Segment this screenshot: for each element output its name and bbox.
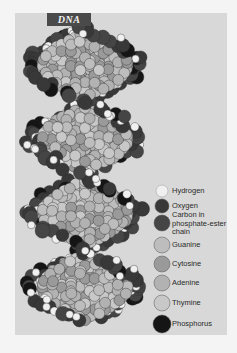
- atom-sphere: [126, 202, 134, 210]
- atom-sphere: [62, 89, 76, 103]
- atom-sphere: [85, 169, 93, 177]
- atom-sphere: [103, 132, 114, 143]
- atom-sphere: [89, 77, 100, 88]
- atom-sphere: [66, 311, 74, 319]
- atom-sphere: [31, 145, 39, 153]
- atom-sphere: [84, 113, 95, 124]
- atom-sphere: [56, 163, 69, 176]
- legend-swatch-hydrogen-icon: [156, 185, 168, 197]
- atom-sphere: [23, 141, 31, 149]
- legend-label-carbon-3: chain: [172, 228, 190, 237]
- atom-sphere: [97, 101, 105, 109]
- atom-sphere: [70, 150, 81, 161]
- atom-sphere: [113, 256, 121, 264]
- atom-sphere: [117, 34, 125, 42]
- legend-swatch-phosphorus-icon: [153, 315, 171, 333]
- atom-sphere: [130, 265, 138, 273]
- atom-sphere: [100, 297, 111, 308]
- legend-swatch-cytosine-icon: [154, 256, 170, 272]
- atom-sphere: [100, 255, 115, 270]
- dna-helix-atoms: [19, 20, 149, 327]
- atom-sphere: [54, 263, 65, 274]
- legend-swatch-adenine-icon: [154, 275, 170, 291]
- atom-sphere: [50, 156, 58, 164]
- atom-sphere: [118, 110, 131, 123]
- atom-sphere: [75, 300, 86, 311]
- dna-space-filling-model: [0, 0, 237, 353]
- atom-sphere: [120, 288, 131, 299]
- atom-sphere: [32, 269, 40, 277]
- atom-sphere: [79, 96, 93, 110]
- atom-sphere: [73, 313, 81, 321]
- atom-sphere: [84, 201, 95, 212]
- atom-sphere: [113, 74, 124, 85]
- atom-sphere: [93, 215, 104, 226]
- atom-sphere: [80, 156, 91, 167]
- legend-swatches: [153, 185, 171, 333]
- atom-sphere: [91, 159, 102, 170]
- atom-sphere: [103, 182, 116, 195]
- atom-sphere: [48, 276, 59, 287]
- legend-label-phosphorus: Phosphorus: [172, 320, 212, 329]
- atom-sphere: [79, 30, 87, 38]
- atom-sphere: [94, 285, 105, 296]
- atom-sphere: [75, 268, 86, 279]
- atom-sphere: [47, 205, 58, 216]
- legend-label-hydrogen: Hydrogen: [172, 187, 205, 196]
- legend-swatch-oxygen-icon: [155, 199, 169, 213]
- atom-sphere: [37, 78, 51, 92]
- atom-sphere: [52, 122, 63, 133]
- atom-sphere: [94, 308, 105, 319]
- atom-sphere: [37, 132, 48, 143]
- legend-swatch-guanine-icon: [154, 237, 170, 253]
- atom-sphere: [40, 51, 51, 62]
- atom-sphere: [131, 123, 139, 131]
- atom-sphere: [80, 77, 91, 88]
- atom-sphere: [28, 221, 36, 229]
- legend-label-cytosine: Cytosine: [172, 260, 201, 269]
- atom-sphere: [89, 273, 100, 284]
- legend-label-adenine: Adenine: [172, 279, 200, 288]
- atom-sphere: [65, 256, 76, 267]
- atom-sphere: [112, 279, 123, 290]
- diagram-title: DNA: [47, 13, 91, 26]
- atom-sphere: [92, 175, 100, 183]
- legend-label-guanine: Guanine: [172, 241, 200, 250]
- atom-sphere: [93, 65, 104, 76]
- atom-sphere: [66, 288, 77, 299]
- atom-sphere: [56, 131, 67, 142]
- atom-sphere: [56, 229, 69, 242]
- atom-sphere: [66, 211, 77, 222]
- legend-label-thymine: Thymine: [172, 299, 201, 308]
- legend-swatch-thymine-icon: [154, 295, 170, 311]
- atom-sphere: [84, 58, 95, 69]
- atom-sphere: [80, 218, 91, 229]
- atom-sphere: [104, 110, 112, 118]
- legend-swatch-carbon-icon: [154, 215, 170, 231]
- atom-sphere: [43, 303, 51, 311]
- atom-sphere: [80, 188, 91, 199]
- atom-sphere: [84, 137, 95, 148]
- atom-sphere: [81, 247, 89, 255]
- atom-sphere: [27, 289, 35, 297]
- atom-sphere: [75, 65, 86, 76]
- atom-sphere: [123, 190, 131, 198]
- atom-sphere: [35, 223, 50, 238]
- atom-sphere: [52, 189, 63, 200]
- atom-sphere: [43, 296, 51, 304]
- atom-sphere: [64, 183, 75, 194]
- atom-sphere: [104, 148, 115, 159]
